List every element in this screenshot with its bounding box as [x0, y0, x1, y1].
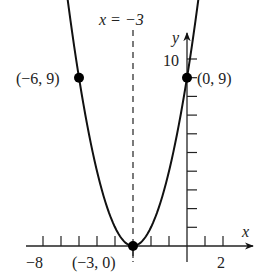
y-tick-label-10: 10: [163, 52, 179, 69]
x-tick-label-2: 2: [217, 254, 225, 271]
data-point: [128, 241, 138, 251]
point-label-neg6-9: (−6, 9): [16, 70, 60, 88]
x-axis-label: x: [241, 223, 249, 240]
y-axis-label: y: [170, 29, 180, 47]
point-label-vertex: (−3, 0): [72, 254, 116, 272]
point-label-0-9: (0, 9): [197, 70, 232, 88]
axis-of-symmetry-label: x = −3: [98, 11, 144, 28]
parabola-graph: x = −3 y x 10 −8 2 (−6, 9) (0, 9) (−3, 0…: [0, 0, 267, 276]
data-point: [74, 73, 84, 83]
y-axis-ticks: [187, 59, 197, 227]
x-tick-label-neg8: −8: [26, 254, 43, 271]
data-point: [182, 73, 192, 83]
